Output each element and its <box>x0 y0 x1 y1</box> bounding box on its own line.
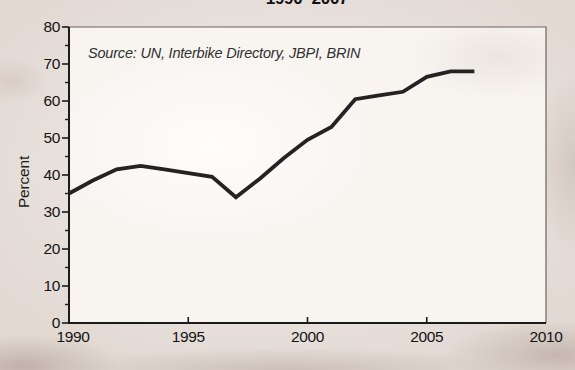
y-tick-label: 0 <box>20 314 60 332</box>
y-tick-label: 60 <box>20 92 60 110</box>
x-tick-label: 2010 <box>530 328 563 346</box>
plot-border <box>69 27 546 323</box>
x-tick-label: 1995 <box>172 328 205 346</box>
y-tick-label: 80 <box>20 18 60 36</box>
y-tick-label: 50 <box>20 129 60 147</box>
source-note: Source: UN, Interbike Directory, JBPI, B… <box>88 45 360 61</box>
y-tick-label: 30 <box>20 203 60 221</box>
x-tick-label: 1990 <box>57 328 90 346</box>
x-tick-label: 2000 <box>291 328 324 346</box>
axis-lines <box>69 27 546 323</box>
y-tick-label: 70 <box>20 55 60 73</box>
y-tick-label: 10 <box>20 277 60 295</box>
y-tick-label: 20 <box>20 240 60 258</box>
figure-container: 1990–2007 Source: UN, Interbike Director… <box>0 0 575 370</box>
x-tick-label: 2005 <box>410 328 443 346</box>
data-line-series <box>69 71 474 197</box>
y-tick-label: 40 <box>20 166 60 184</box>
